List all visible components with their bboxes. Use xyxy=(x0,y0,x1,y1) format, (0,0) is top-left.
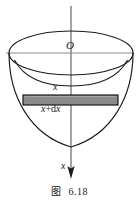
depth-x-plus-dx-label: x+dx xyxy=(41,104,61,114)
x-plus-dx-operator: +d xyxy=(45,103,56,114)
figure-paraboloid-of-revolution: O x x+dx x 图6.18 xyxy=(0,0,139,202)
origin-label: O xyxy=(66,40,74,51)
figure-drawing xyxy=(0,0,139,202)
x-axis-label: x xyxy=(61,161,65,171)
depth-x-label: x xyxy=(53,82,57,92)
figure-caption: 图6.18 xyxy=(0,183,139,198)
figure-caption-number: 6.18 xyxy=(69,186,89,197)
figure-caption-word: 图 xyxy=(51,186,62,197)
x-plus-dx-second-var: x xyxy=(56,103,60,114)
